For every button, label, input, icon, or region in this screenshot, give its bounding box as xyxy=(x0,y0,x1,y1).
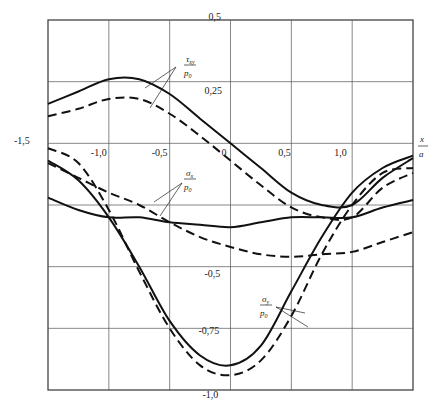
sigma-x-label-num: σx xyxy=(186,168,193,179)
chart: -1,5-1,0-0,500,51,00,50,25-0,5-0,75-1,0 … xyxy=(0,0,445,413)
x-tick-label: -0,5 xyxy=(152,147,168,158)
x-axis-label-num: x xyxy=(419,134,424,144)
y-tick-label: -1,0 xyxy=(203,389,219,400)
y-tick-label: 0,25 xyxy=(205,85,223,96)
x-tick-label: 1,0 xyxy=(334,147,347,158)
grid xyxy=(48,20,413,390)
tau-label-num: τxy xyxy=(186,54,195,65)
x-axis-label-den: a xyxy=(419,149,424,159)
sigma-y-label-num: σy xyxy=(262,294,269,305)
x-tick-label: 0 xyxy=(222,147,227,158)
sigma-y-label-den: p0 xyxy=(259,308,268,319)
x-tick-label: 0,5 xyxy=(278,147,291,158)
x-tick-label: -1,0 xyxy=(91,147,107,158)
tick-labels: -1,5-1,0-0,500,51,00,50,25-0,5-0,75-1,0 xyxy=(14,11,347,400)
y-tick-label: -0,75 xyxy=(199,325,220,336)
sigma-x-label-den: p0 xyxy=(183,182,192,193)
y-tick-label: 0,5 xyxy=(209,11,222,22)
tau-label-den: p0 xyxy=(183,68,192,79)
x-tick-label: -1,5 xyxy=(14,135,30,146)
y-tick-label: -0,5 xyxy=(205,268,221,279)
